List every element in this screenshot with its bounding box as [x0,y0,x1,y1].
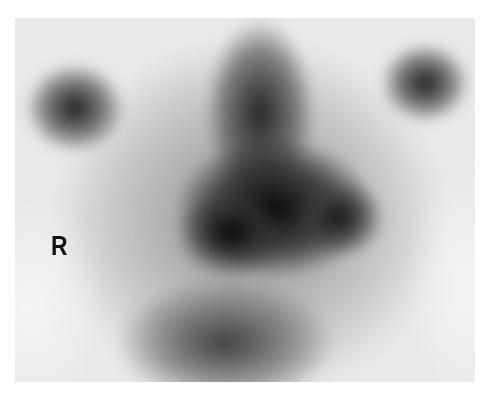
grain-texture [15,18,475,382]
orientation-label: R [51,231,68,262]
scan-image: R [15,18,475,382]
